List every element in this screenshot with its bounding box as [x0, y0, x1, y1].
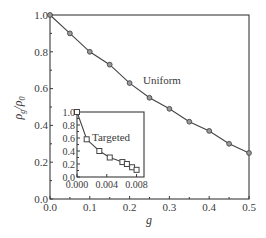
- main-xtick-label: 0.3: [163, 201, 177, 213]
- data-point-marker: [227, 141, 232, 146]
- main-ytick-label: 0.6: [34, 82, 48, 94]
- main-xtick-label: 0.1: [83, 201, 97, 213]
- inset-xtick-label: 0.000: [66, 179, 89, 190]
- data-point-marker: [87, 49, 92, 54]
- inset-xtick-label: 0.008: [125, 179, 148, 190]
- series-label-uniform: Uniform: [143, 74, 181, 86]
- inset-ytick-label: 0.4: [63, 146, 76, 157]
- inset-ytick-label: 0.8: [63, 120, 76, 131]
- data-point-marker: [97, 149, 102, 154]
- data-point-marker: [147, 95, 152, 100]
- inset-ytick-label: 0.2: [63, 159, 76, 170]
- data-point-marker: [124, 162, 129, 167]
- inset-ytick-label: 0.6: [63, 133, 76, 144]
- data-point-marker: [48, 13, 53, 18]
- main-ytick-label: 1.0: [34, 9, 48, 21]
- data-point-marker: [107, 155, 112, 160]
- data-point-marker: [127, 81, 132, 86]
- main-ytick-label: 0.4: [34, 119, 48, 131]
- data-point-marker: [167, 106, 172, 111]
- main-xtick-label: 0.4: [202, 201, 216, 213]
- inset-xtick-label: 0.004: [96, 179, 119, 190]
- main-ytick-label: 0.2: [34, 156, 48, 168]
- main-ytick-label: 0.8: [34, 46, 48, 58]
- data-point-marker: [107, 62, 112, 67]
- main-xtick-label: 0.0: [43, 201, 57, 213]
- data-point-marker: [84, 137, 89, 142]
- y-axis-label: ρg/ρ0: [11, 97, 27, 121]
- main-xtick-label: 0.2: [123, 201, 137, 213]
- data-point-marker: [134, 167, 139, 172]
- data-point-marker: [75, 110, 80, 115]
- chart-figure: 0.00.20.40.60.81.00.00.10.20.30.40.5 ρg/…: [0, 0, 266, 238]
- main-xtick-label: 0.5: [242, 201, 256, 213]
- data-point-marker: [247, 151, 252, 156]
- series-label-targeted: Targeted: [92, 131, 131, 143]
- inset-ytick-label: 1.0: [63, 107, 76, 118]
- data-point-marker: [207, 129, 212, 134]
- data-point-marker: [187, 119, 192, 124]
- x-axis-label: g: [146, 213, 152, 227]
- data-point-marker: [68, 31, 73, 36]
